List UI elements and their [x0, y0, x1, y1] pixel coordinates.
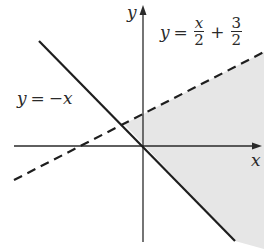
eq1-lhs: y	[17, 88, 27, 108]
eq1-equals: =	[31, 88, 45, 108]
eq2-plus: +	[210, 22, 224, 42]
eq2-fraction-1: x 2	[194, 16, 204, 48]
eq2-numerator-1: x	[194, 16, 204, 32]
eq1-rhs: −x	[49, 88, 73, 108]
y-axis-arrow-icon	[140, 5, 147, 15]
eq2-denominator-2: 2	[232, 32, 242, 48]
eq2-numerator-2: 3	[231, 16, 243, 32]
eq2-lhs: y	[160, 22, 170, 42]
eq2-equals: =	[174, 22, 188, 42]
eq2-denominator-1: 2	[194, 32, 204, 48]
eq2-fraction-2: 3 2	[231, 16, 243, 48]
y-axis-label: y	[127, 2, 137, 22]
equation-label-dashed: y = x 2 + 3 2	[160, 16, 244, 48]
equation-label-solid: y = −x	[17, 88, 73, 108]
x-axis-label: x	[251, 150, 261, 170]
